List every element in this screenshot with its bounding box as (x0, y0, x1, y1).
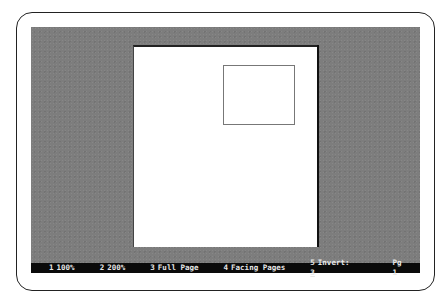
page-indicator: Pg 1 (374, 248, 401, 288)
function-key-bar: 1100% 2200% 3Full Page 4Facing Pages 5In… (31, 263, 420, 273)
page-graphic-box (223, 65, 295, 125)
invert-option[interactable]: 5Invert: 3 (292, 248, 349, 288)
page-number: 1 (393, 268, 398, 278)
zoom-100-option[interactable]: 1100% (31, 253, 75, 283)
zoom-200-option[interactable]: 2200% (82, 253, 126, 283)
facing-pages-option[interactable]: 4Facing Pages (206, 253, 286, 283)
full-page-option[interactable]: 3Full Page (132, 253, 198, 283)
invert-value-input[interactable]: 3 (310, 268, 315, 278)
